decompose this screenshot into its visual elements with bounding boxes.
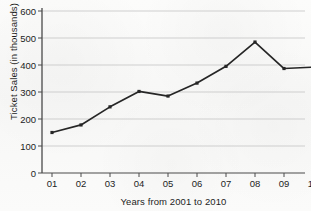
data-point-marker [282,67,285,70]
data-point-marker [137,90,140,93]
data-point-marker [50,131,53,134]
x-tick-label: 06 [185,178,209,189]
x-axis-title: Years from 2001 to 2010 [42,196,305,207]
data-point-marker [195,81,198,84]
data-point-marker [224,65,227,68]
x-axis-tick-marks [52,173,311,177]
x-tick-label: 02 [69,178,93,189]
x-tick-label: 10 [301,178,311,189]
x-tick-label: 07 [214,178,238,189]
axis-lines [42,8,305,173]
data-point-marker [166,94,169,97]
x-tick-label: 09 [272,178,296,189]
x-tick-label: 08 [243,178,267,189]
line-chart: Ticket Sales (in thousands) 010020030040… [0,0,311,211]
x-tick-label: 03 [98,178,122,189]
data-point-marker [253,40,256,43]
x-tick-label: 04 [127,178,151,189]
x-tick-label: 05 [156,178,180,189]
data-point-marker [79,123,82,126]
data-point-marker [108,105,111,108]
x-tick-label: 01 [40,178,64,189]
